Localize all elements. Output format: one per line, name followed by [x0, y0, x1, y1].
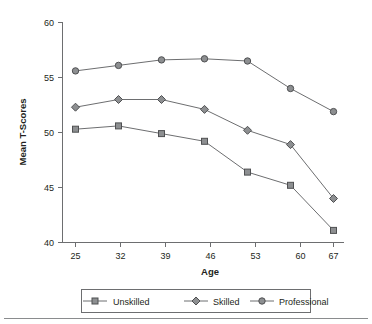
chart-figure: 60 55 50 45 40 25 32 39 46 53 60 67 Age …	[0, 0, 372, 324]
data-point-professional-67	[330, 108, 336, 114]
y-tick-label-55: 55	[44, 73, 54, 83]
series-unskilled	[73, 123, 337, 233]
y-tick-label-45: 45	[44, 183, 54, 193]
y-tick-label-50: 50	[44, 128, 54, 138]
data-point-skilled-25	[72, 103, 80, 111]
y-tick-label-60: 60	[44, 18, 54, 28]
x-tick-label-53: 53	[250, 251, 260, 261]
series-line-professional	[76, 59, 334, 112]
legend-label-skilled: Skilled	[213, 297, 240, 307]
data-point-unskilled-25	[73, 126, 79, 132]
legend-label-professional: Professional	[279, 297, 329, 307]
x-axis-title: Age	[201, 266, 219, 277]
data-point-unskilled-67	[331, 227, 337, 233]
data-point-professional-60	[287, 85, 293, 91]
data-point-skilled-39	[158, 96, 166, 104]
x-axis-ticks	[76, 243, 334, 248]
x-tick-label-32: 32	[115, 251, 125, 261]
x-tick-label-67: 67	[328, 251, 338, 261]
legend-marker-unskilled	[92, 298, 98, 304]
data-point-unskilled-39	[159, 131, 165, 137]
x-tick-label-46: 46	[205, 251, 215, 261]
data-point-professional-39	[158, 57, 164, 63]
y-axis-title: Mean T-Scores	[17, 98, 28, 165]
plot-area	[72, 56, 338, 234]
data-point-professional-46	[201, 56, 207, 62]
legend-label-unskilled: Unskilled	[113, 297, 150, 307]
data-point-unskilled-46	[202, 138, 208, 144]
data-point-professional-32	[115, 62, 121, 68]
y-tick-label-40: 40	[44, 238, 54, 248]
data-point-professional-53	[244, 58, 250, 64]
series-skilled	[72, 96, 338, 203]
data-point-unskilled-53	[245, 169, 251, 175]
line-chart-svg: 60 55 50 45 40 25 32 39 46 53 60 67 Age …	[0, 0, 372, 324]
data-point-skilled-46	[201, 105, 209, 113]
x-tick-label-60: 60	[295, 251, 305, 261]
x-tick-label-25: 25	[70, 251, 80, 261]
legend-marker-professional	[259, 298, 265, 304]
series-line-skilled	[76, 100, 334, 199]
data-point-professional-25	[72, 68, 78, 74]
data-point-unskilled-60	[288, 182, 294, 188]
data-point-skilled-32	[115, 96, 123, 104]
y-axis-ticks	[58, 23, 63, 243]
data-point-skilled-53	[244, 126, 252, 134]
x-tick-label-39: 39	[160, 251, 170, 261]
data-point-unskilled-32	[116, 123, 122, 129]
